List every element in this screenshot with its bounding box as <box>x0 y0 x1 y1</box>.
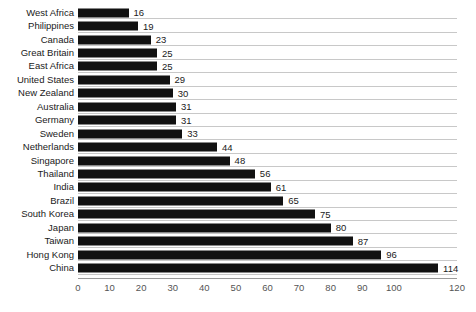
bar-row: Canada23 <box>0 33 476 46</box>
bar-row: Taiwan87 <box>0 234 476 247</box>
bar-track: 75 <box>78 210 476 219</box>
bar-row: West Africa16 <box>0 6 476 19</box>
bar-row: India61 <box>0 181 476 194</box>
bar-track: 23 <box>78 35 476 44</box>
bar-row: Philippines19 <box>0 19 476 32</box>
bar-row: Singapore48 <box>0 154 476 167</box>
bar-track: 25 <box>78 49 476 58</box>
bar-row: South Korea75 <box>0 208 476 221</box>
category-label: Sweden <box>0 129 74 139</box>
bar-track: 31 <box>78 116 476 125</box>
category-label: Canada <box>0 35 74 45</box>
bar <box>78 35 151 44</box>
bar-value-label: 31 <box>181 102 192 112</box>
x-tick-label: 20 <box>136 282 147 294</box>
x-tick-label: 40 <box>199 282 210 294</box>
bar <box>78 22 138 31</box>
bar-row: Hong Kong96 <box>0 248 476 261</box>
bar <box>78 264 438 273</box>
bar <box>78 156 230 165</box>
bar-track: 30 <box>78 89 476 98</box>
bar-value-label: 19 <box>143 21 154 31</box>
bar-value-label: 48 <box>235 156 246 166</box>
bar-value-label: 96 <box>386 250 397 260</box>
bar-row: New Zealand30 <box>0 87 476 100</box>
category-label: Taiwan <box>0 236 74 246</box>
category-label: India <box>0 182 74 192</box>
bar <box>78 102 176 111</box>
bar-row: Thailand56 <box>0 167 476 180</box>
category-label: East Africa <box>0 61 74 71</box>
bar-value-label: 23 <box>156 35 167 45</box>
category-label: Japan <box>0 223 74 233</box>
category-label: Singapore <box>0 156 74 166</box>
bar-value-label: 61 <box>276 182 287 192</box>
category-label: Brazil <box>0 196 74 206</box>
bar-value-label: 16 <box>134 8 145 18</box>
bar-value-label: 31 <box>181 115 192 125</box>
bar-value-label: 80 <box>336 223 347 233</box>
x-tick-label: 90 <box>357 282 368 294</box>
bar-row: United States29 <box>0 73 476 86</box>
bar <box>78 237 353 246</box>
bar-value-label: 65 <box>288 196 299 206</box>
bar-track: 16 <box>78 8 476 17</box>
bar-value-label: 114 <box>443 263 458 273</box>
category-label: Philippines <box>0 21 74 31</box>
bar <box>78 89 173 98</box>
bar-row: Germany31 <box>0 114 476 127</box>
bar-track: 80 <box>78 223 476 232</box>
plot-area: West Africa16Philippines19Canada23Great … <box>0 0 476 278</box>
gridline <box>78 274 457 275</box>
bar-row: Netherlands44 <box>0 140 476 153</box>
bar-rows: West Africa16Philippines19Canada23Great … <box>0 6 476 275</box>
bar-track: 19 <box>78 22 476 31</box>
category-label: United States <box>0 75 74 85</box>
x-tick-label: 0 <box>75 282 80 294</box>
bar <box>78 223 331 232</box>
category-label: Netherlands <box>0 142 74 152</box>
bar-row: Japan80 <box>0 221 476 234</box>
bar-track: 44 <box>78 143 476 152</box>
bar-row: Great Britain25 <box>0 46 476 59</box>
bar <box>78 75 170 84</box>
x-axis-line <box>78 278 457 279</box>
x-tick-label: 70 <box>294 282 305 294</box>
bar-track: 25 <box>78 62 476 71</box>
bar <box>78 143 217 152</box>
bar <box>78 62 157 71</box>
bar-value-label: 75 <box>320 209 331 219</box>
bar <box>78 196 283 205</box>
x-tick-label: 50 <box>231 282 242 294</box>
bar-value-label: 25 <box>162 48 173 58</box>
category-label: West Africa <box>0 8 74 18</box>
bar <box>78 250 381 259</box>
bar-track: 61 <box>78 183 476 192</box>
category-label: China <box>0 263 74 273</box>
bar-track: 96 <box>78 250 476 259</box>
bar-row: Sweden33 <box>0 127 476 140</box>
x-tick-label: 30 <box>167 282 178 294</box>
bar-track: 48 <box>78 156 476 165</box>
x-tick-label: 120 <box>449 282 465 294</box>
bar-track: 31 <box>78 102 476 111</box>
category-label: Hong Kong <box>0 250 74 260</box>
bar <box>78 116 176 125</box>
bar-value-label: 30 <box>178 88 189 98</box>
bar-value-label: 29 <box>175 75 186 85</box>
bar <box>78 210 315 219</box>
bar <box>78 183 271 192</box>
x-tick-label: 10 <box>104 282 115 294</box>
category-label: Australia <box>0 102 74 112</box>
bar-row: China114 <box>0 261 476 274</box>
bar-track: 114 <box>78 264 476 273</box>
bar-value-label: 25 <box>162 61 173 71</box>
x-tick-label: 60 <box>262 282 273 294</box>
bar-chart: West Africa16Philippines19Canada23Great … <box>0 0 476 312</box>
category-label: Great Britain <box>0 48 74 58</box>
bar-track: 87 <box>78 237 476 246</box>
bar-track: 33 <box>78 129 476 138</box>
x-axis-tick-labels: 0102030405060708090100120 <box>0 282 476 302</box>
bar-row: East Africa25 <box>0 60 476 73</box>
bar <box>78 129 182 138</box>
